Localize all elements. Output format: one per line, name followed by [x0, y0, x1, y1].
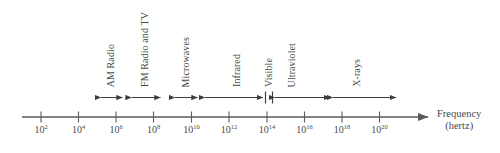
- tick-label: 1012: [221, 124, 238, 135]
- tick-label: 106: [109, 124, 122, 135]
- band-label-x-rays: X-rays: [352, 59, 362, 87]
- tick-mantissa: 10: [221, 124, 231, 135]
- tick-mantissa: 10: [147, 124, 157, 135]
- tick-exponent: 20: [381, 123, 388, 130]
- band-label-ultraviolet: Ultraviolet: [287, 43, 297, 87]
- band-label-visible: Visible: [264, 58, 274, 87]
- tick-mantissa: 10: [72, 124, 82, 135]
- tick-label: 1020: [371, 124, 388, 135]
- tick-exponent: 2: [44, 123, 47, 130]
- band-range-markers: [101, 92, 396, 104]
- tick-exponent: 12: [231, 123, 238, 130]
- tick-exponent: 8: [157, 123, 160, 130]
- tick-exponent: 14: [269, 123, 276, 130]
- axis-title-line1: Frequency: [437, 108, 481, 120]
- tick-label: 1016: [296, 124, 313, 135]
- tick-exponent: 18: [344, 123, 351, 130]
- band-label-microwaves: Microwaves: [181, 37, 191, 87]
- tick-mantissa: 10: [371, 124, 381, 135]
- band-label-infrared: Infrared: [232, 54, 242, 87]
- tick-label: 104: [72, 124, 85, 135]
- band-label-fm-radio-and-tv: FM Radio and TV: [140, 12, 150, 87]
- tick-mantissa: 10: [183, 124, 193, 135]
- tick-mantissa: 10: [34, 124, 44, 135]
- axis-title: Frequency (hertz): [437, 108, 481, 132]
- tick-mantissa: 10: [259, 124, 269, 135]
- tick-label: 1010: [183, 124, 200, 135]
- tick-label: 108: [147, 124, 160, 135]
- spectrum-figure: AM Radio FM Radio and TV Microwaves Infr…: [0, 0, 500, 153]
- tick-mantissa: 10: [296, 124, 306, 135]
- tick-label: 102: [34, 124, 47, 135]
- tick-exponent: 16: [306, 123, 313, 130]
- tick-exponent: 4: [82, 123, 85, 130]
- band-label-am-radio: AM Radio: [106, 44, 116, 87]
- axis-title-line2: (hertz): [437, 120, 481, 132]
- tick-label: 1014: [259, 124, 276, 135]
- tick-label: 1018: [334, 124, 351, 135]
- tick-mantissa: 10: [109, 124, 119, 135]
- tick-mantissa: 10: [334, 124, 344, 135]
- tick-exponent: 6: [119, 123, 122, 130]
- tick-exponent: 10: [193, 123, 200, 130]
